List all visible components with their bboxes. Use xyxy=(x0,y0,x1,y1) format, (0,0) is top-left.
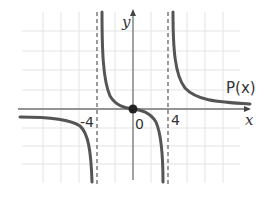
y-axis-label: y xyxy=(121,13,131,31)
rational-function-graph: y x -4 0 4 P(x) xyxy=(0,0,267,197)
grid xyxy=(22,12,240,183)
tick-label-neg4: -4 xyxy=(80,114,94,130)
curve xyxy=(20,12,250,182)
x-axis-label: x xyxy=(245,111,254,129)
tick-label-origin: 0 xyxy=(135,116,144,132)
y-axis-arrow-icon xyxy=(130,9,136,16)
function-label: P(x) xyxy=(226,79,256,97)
tick-label-4: 4 xyxy=(171,112,180,128)
origin-point xyxy=(129,105,138,114)
